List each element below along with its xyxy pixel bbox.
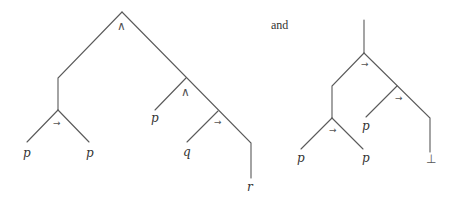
leaf-r: r [247,180,254,194]
leaf-p-1: p [23,146,31,160]
right-tree: → → p p → p ⊥ [297,20,436,166]
leaf-p-1: p [297,151,305,165]
edge-impl2-p3 [366,86,397,117]
edge-impl1-p2 [58,110,89,142]
implies-operator-root: → [361,59,369,69]
leaf-p-2: p [362,151,370,165]
implies-operator-2: → [395,93,403,103]
formula-trees-diagram: ∧ → p p ∧ p → q r and → → p p → p ⊥ [0,0,453,199]
leaf-p-3: p [151,111,159,125]
and-operator-root: ∧ [117,19,126,33]
edge-impl1-p2 [332,118,363,149]
bottom-symbol: ⊥ [426,152,436,166]
edge-root-left [58,12,122,110]
leaf-q: q [183,145,191,159]
and-operator-2: ∧ [181,85,190,99]
leaf-p-3: p [362,119,370,133]
implies-operator-1: → [329,125,337,135]
edge-root-left [332,53,364,118]
edge-impl1-p1 [301,118,332,149]
implies-operator-1: → [53,118,61,128]
connector-and-text: and [271,18,288,32]
left-tree: ∧ → p p ∧ p → q r [23,12,254,194]
leaf-p-2: p [86,146,94,160]
implies-operator-2: → [214,117,222,127]
